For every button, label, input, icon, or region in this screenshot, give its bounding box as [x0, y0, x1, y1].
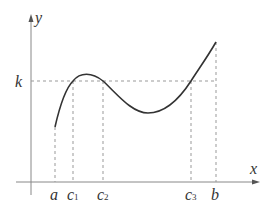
x-axis-label: x	[249, 160, 257, 177]
tick-label-c3: c3	[185, 186, 197, 203]
tick-label-c2: c2	[97, 186, 109, 203]
y-axis-arrow-icon	[29, 14, 34, 22]
k-label: k	[15, 73, 23, 90]
function-graph-diagram: y x k a c1 c2 c3 b	[0, 0, 274, 209]
function-curve	[55, 42, 216, 127]
tick-label-a: a	[50, 186, 58, 203]
tick-label-c1: c1	[67, 186, 79, 203]
y-axis-label: y	[33, 9, 43, 27]
tick-label-b: b	[211, 186, 219, 203]
graph-svg: y x k a c1 c2 c3 b	[0, 0, 274, 209]
x-axis-arrow-icon	[252, 180, 260, 185]
